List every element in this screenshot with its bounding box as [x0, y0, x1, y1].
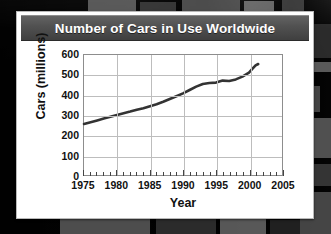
- gridline-vertical: [117, 55, 118, 175]
- x-axis-minor-tick: [183, 170, 184, 176]
- x-axis-minor-tick: [143, 172, 144, 176]
- x-axis-minor-tick: [123, 172, 124, 176]
- x-axis-minor-tick: [283, 170, 284, 176]
- y-axis-tick-label: 500: [21, 69, 79, 80]
- gridline-vertical: [251, 55, 252, 175]
- x-axis-minor-tick: [223, 172, 224, 176]
- x-axis-minor-tick: [196, 172, 197, 176]
- gridline-horizontal: [84, 136, 282, 137]
- x-axis-minor-tick: [90, 172, 91, 176]
- x-axis-label: Year: [83, 196, 283, 210]
- x-axis-minor-tick: [176, 172, 177, 176]
- y-axis-tick-label: 300: [21, 110, 79, 121]
- y-axis-tick-label: 200: [21, 130, 79, 141]
- x-axis-minor-tick: [250, 170, 251, 176]
- x-axis-minor-tick: [243, 172, 244, 176]
- x-axis-minor-tick: [276, 172, 277, 176]
- chart-plot-area: 0100200300400500600 19751980198519901995…: [21, 43, 309, 216]
- chart-card: Number of Cars in Use Worldwide 01002003…: [16, 11, 314, 219]
- x-axis-minor-tick: [210, 172, 211, 176]
- x-axis-minor-tick: [190, 172, 191, 176]
- gridline-horizontal: [84, 75, 282, 76]
- y-axis-tick-label: 600: [21, 49, 79, 60]
- x-axis-minor-tick: [103, 172, 104, 176]
- x-axis-minor-tick: [150, 170, 151, 176]
- x-axis-minor-tick: [96, 172, 97, 176]
- x-axis-minor-tick: [216, 170, 217, 176]
- gridline-horizontal: [84, 96, 282, 97]
- x-axis-minor-tick: [156, 172, 157, 176]
- photo-detail: [156, 218, 216, 234]
- page-title: Number of Cars in Use Worldwide: [55, 21, 275, 36]
- photo-detail: [312, 118, 331, 158]
- x-axis-minor-tick: [110, 172, 111, 176]
- y-axis-tick-label: 100: [21, 151, 79, 162]
- gridline-horizontal: [84, 116, 282, 117]
- x-axis-minor-tick: [270, 172, 271, 176]
- y-axis-label: Cars (millions): [34, 16, 48, 136]
- x-axis-minor-tick: [230, 172, 231, 176]
- x-axis-minor-tick: [236, 172, 237, 176]
- x-axis-tick-label: 2005: [263, 180, 303, 191]
- x-axis-minor-tick: [263, 172, 264, 176]
- x-axis-minor-tick: [116, 170, 117, 176]
- gridline-vertical: [184, 55, 185, 175]
- chart-title-bar: Number of Cars in Use Worldwide: [21, 15, 309, 41]
- photo-detail: [270, 220, 300, 234]
- x-axis-minor-tick: [83, 170, 84, 176]
- x-axis-minor-tick: [203, 172, 204, 176]
- gridline-horizontal: [84, 157, 282, 158]
- gridline-vertical: [151, 55, 152, 175]
- data-line: [84, 64, 258, 124]
- x-axis-minor-tick: [163, 172, 164, 176]
- x-axis-minor-tick: [170, 172, 171, 176]
- x-axis-minor-tick: [136, 172, 137, 176]
- gridline-vertical: [217, 55, 218, 175]
- plot-frame: [83, 54, 283, 176]
- y-axis-tick-label: 400: [21, 90, 79, 101]
- x-axis-minor-tick: [130, 172, 131, 176]
- x-axis-minor-tick: [256, 172, 257, 176]
